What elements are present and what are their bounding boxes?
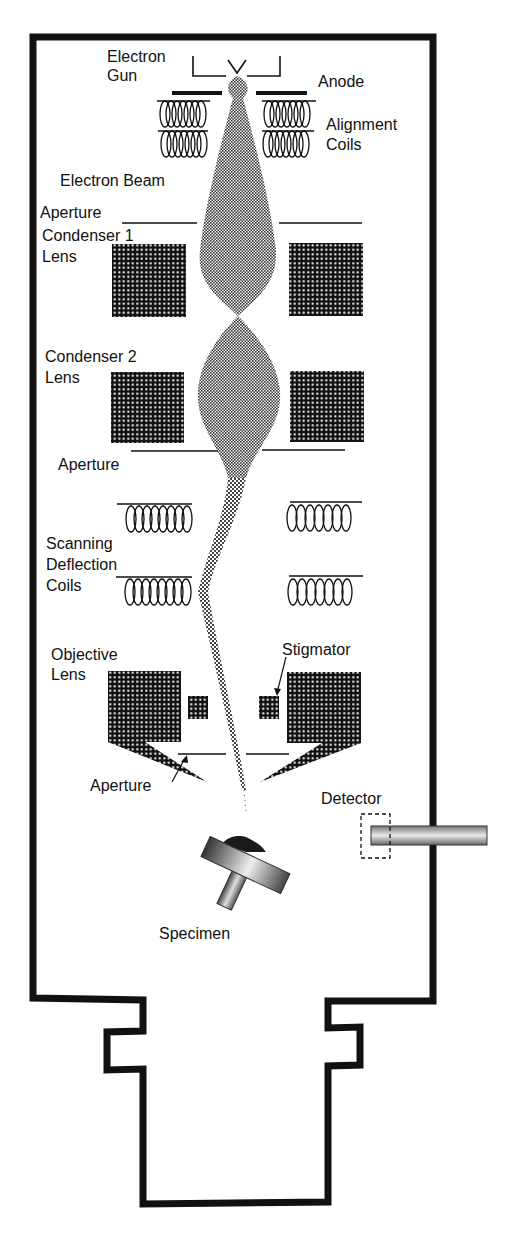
specimen — [201, 836, 290, 910]
label-objective-lens-2: Lens — [51, 666, 86, 683]
label-condenser-2: Condenser 2 — [45, 348, 137, 365]
aperture-3 — [172, 754, 289, 782]
label-stigmator: Stigmator — [282, 641, 351, 658]
stigmator — [188, 657, 286, 719]
label-specimen: Specimen — [159, 925, 230, 942]
label-scanning-coils-2: Deflection — [46, 556, 117, 573]
label-detector: Detector — [321, 790, 382, 807]
label-alignment-coils-2: Coils — [326, 136, 362, 153]
label-electron-gun: Electron — [107, 48, 166, 65]
detector — [361, 814, 487, 858]
label-scanning-coils-3: Coils — [46, 577, 82, 594]
label-aperture-1: Aperture — [40, 204, 101, 221]
label-aperture-3: Aperture — [90, 777, 151, 794]
sem-column-diagram: Electron Gun Anode Alignment Coils Elect… — [0, 0, 518, 1236]
label-aperture-2: Aperture — [58, 456, 119, 473]
label-electron-gun-2: Gun — [107, 67, 137, 84]
objective-lens — [108, 671, 361, 782]
scanning-deflection-coils — [116, 502, 363, 605]
label-scanning-coils: Scanning — [46, 535, 113, 552]
label-electron-beam: Electron Beam — [60, 172, 165, 189]
electron-gun — [193, 56, 280, 76]
label-condenser-2-2: Lens — [45, 369, 80, 386]
label-condenser-1: Condenser 1 — [42, 227, 134, 244]
label-alignment-coils: Alignment — [326, 116, 398, 133]
label-anode: Anode — [318, 73, 364, 90]
label-objective-lens: Objective — [51, 646, 118, 663]
label-condenser-1-2: Lens — [42, 248, 77, 265]
